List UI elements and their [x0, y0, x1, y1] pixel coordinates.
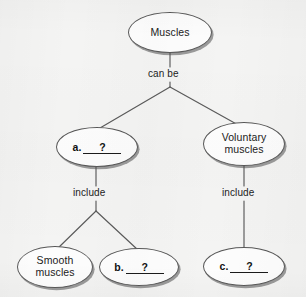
node-blank-a[interactable]: a. ?	[56, 127, 138, 167]
node-blank-b[interactable]: b. ?	[99, 248, 179, 286]
edge-apex-to-smooth	[56, 211, 96, 250]
node-voluntary-muscles[interactable]: Voluntary muscles	[203, 122, 285, 166]
node-blank-c[interactable]: c. ?	[203, 247, 285, 286]
node-muscles-label: Muscles	[150, 27, 189, 39]
blank-b-answer-field[interactable]: ?	[126, 262, 164, 274]
edge-apex-to-blank-a	[100, 87, 170, 128]
node-smooth-muscles-label: Smooth muscles	[35, 255, 74, 278]
node-blank-c-label: c. ?	[220, 260, 269, 273]
connector-label-include-left: include	[70, 187, 108, 198]
concept-map-diagram: Muscles a. ? Voluntary muscles Smooth mu…	[0, 0, 306, 297]
edge-apex-to-blank-b	[96, 211, 138, 250]
blank-a-answer-field[interactable]: ?	[83, 142, 121, 154]
blank-c-answer-field[interactable]: ?	[230, 261, 268, 273]
blank-a-letter: a.	[73, 141, 82, 153]
node-blank-a-label: a. ?	[73, 141, 122, 154]
node-blank-b-label: b. ?	[114, 261, 164, 274]
blank-c-letter: c.	[220, 260, 229, 272]
connector-label-include-right: include	[219, 187, 257, 198]
blank-b-letter: b.	[114, 261, 124, 273]
connector-label-can-be: can be	[145, 68, 182, 79]
edge-apex-to-voluntary	[170, 87, 240, 126]
node-voluntary-muscles-label: Voluntary muscles	[222, 132, 267, 155]
node-muscles[interactable]: Muscles	[128, 12, 212, 53]
node-smooth-muscles[interactable]: Smooth muscles	[17, 246, 93, 288]
